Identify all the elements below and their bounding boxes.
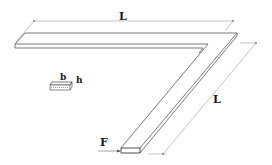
top-length-label: L: [119, 10, 127, 23]
l-beam-diagram: L L F: [0, 0, 272, 165]
cross-section: b h: [50, 72, 83, 90]
diagonal-dimension: L: [148, 42, 257, 155]
height-label: h: [76, 75, 83, 85]
diagonal-length-label: L: [213, 93, 221, 106]
top-dimension: L: [16, 10, 234, 42]
horizontal-beam: [15, 33, 237, 48]
force-arrow: F: [98, 136, 121, 153]
width-label: b: [60, 72, 66, 82]
force-label: F: [100, 136, 108, 149]
